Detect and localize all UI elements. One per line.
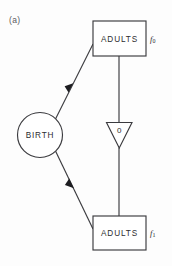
bottom-box-side-label: f1 (150, 227, 155, 238)
node-delay-label: 0 (117, 126, 122, 135)
edge-birth-to-bottom (56, 151, 94, 229)
node-top-box-label: ADULTS (101, 35, 138, 44)
top-box-side-label: f0 (150, 33, 155, 44)
top-box-side-index: 0 (152, 38, 155, 44)
diagram-svg: ADULTS ADULTS BIRTH 0 (a) f0 f1 (0, 0, 172, 266)
edge-birth-to-top (56, 44, 94, 119)
bottom-box-side-index: 1 (152, 232, 155, 238)
arrowhead-birth-to-bottom (65, 179, 74, 189)
node-birth-label: BIRTH (26, 131, 54, 140)
panel-label: (a) (9, 15, 21, 25)
figure-canvas: ADULTS ADULTS BIRTH 0 (a) f0 f1 (0, 0, 172, 266)
arrowhead-birth-to-top (65, 83, 74, 92)
node-bottom-box-label: ADULTS (101, 229, 138, 238)
